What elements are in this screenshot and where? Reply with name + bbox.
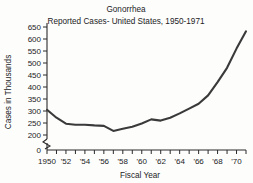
x-tick-label: '66 [193, 157, 204, 166]
y-tick-label: 650 [28, 23, 42, 32]
x-tick-label: '70 [231, 157, 242, 166]
y-tick-label: 350 [28, 95, 42, 104]
y-tick-label: 300 [28, 107, 42, 116]
y-tick-label: 250 [28, 119, 42, 128]
y-tick-label: 500 [28, 59, 42, 68]
x-tick-label: '58 [118, 157, 129, 166]
x-tick-label: '68 [212, 157, 223, 166]
x-axis-title: Fiscal Year [120, 171, 160, 180]
chart-subtitle: Reported Cases- United States, 1950-1971 [47, 17, 204, 26]
y-tick-label: 400 [28, 83, 42, 92]
y-axis-title: Cases in Thousands [4, 55, 13, 130]
x-axis: 1950'52'54'56'58'60'62'64'66'68'70 [38, 150, 246, 166]
x-tick-label: '62 [155, 157, 166, 166]
x-tick-label: '52 [61, 157, 72, 166]
y-axis: 6506005505004504003503002502000 [28, 23, 50, 155]
y-tick-label: 200 [28, 131, 42, 140]
data-series-line [47, 31, 246, 131]
y-tick-label: 600 [28, 35, 42, 44]
x-tick-label: '56 [99, 157, 110, 166]
chart-figure: Gonorrhea Reported Cases- United States,… [0, 0, 253, 183]
gonorrhea-line-chart: Gonorrhea Reported Cases- United States,… [0, 0, 253, 183]
plot-area [47, 31, 246, 131]
y-axis-break-marker [43, 139, 50, 149]
y-tick-label: 0 [37, 146, 42, 155]
y-tick-label: 550 [28, 47, 42, 56]
x-tick-label: '60 [137, 157, 148, 166]
x-tick-label: 1950 [38, 157, 56, 166]
x-tick-label: '64 [174, 157, 185, 166]
x-tick-label: '54 [80, 157, 91, 166]
chart-title: Gonorrhea [106, 5, 146, 14]
y-tick-label: 450 [28, 71, 42, 80]
